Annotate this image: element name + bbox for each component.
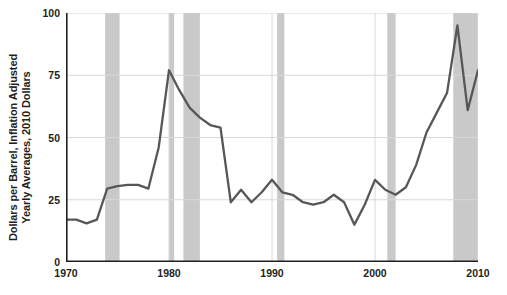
gridline-group	[66, 13, 478, 262]
plot-area	[66, 13, 478, 262]
x-tick-label-1980: 1980	[157, 268, 180, 279]
x-tick-label-1970: 1970	[54, 268, 77, 279]
plot-svg	[66, 13, 478, 262]
y-tick-label-50: 50	[34, 132, 60, 143]
y-axis-title-line-1: Dollars per Barrel, Inflation Adjusted	[7, 54, 20, 241]
x-tick-label-1990: 1990	[260, 268, 283, 279]
x-axis-tick-labels: 1970 1980 1990 2000 2010	[0, 268, 507, 288]
y-tick-label-0: 0	[34, 257, 60, 268]
y-axis-tick-labels: 0 25 50 75 100	[30, 13, 60, 262]
x-tick-label-2010: 2010	[466, 268, 489, 279]
y-tick-label-25: 25	[34, 195, 60, 206]
y-tick-label-100: 100	[34, 8, 60, 19]
y-tick-label-75: 75	[34, 70, 60, 81]
x-tick-label-2000: 2000	[363, 268, 386, 279]
oil-price-chart: Dollars per Barrel, Inflation Adjusted Y…	[0, 0, 507, 295]
